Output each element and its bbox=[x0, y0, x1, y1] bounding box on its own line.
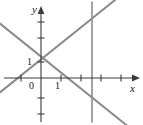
y-unit-tick-label: 1 bbox=[27, 57, 32, 67]
y-axis-arrowhead bbox=[38, 6, 45, 14]
x-axis-arrowhead bbox=[132, 75, 140, 82]
graph-figure: y x 1 0 1 bbox=[0, 0, 143, 125]
origin-label: 0 bbox=[29, 81, 34, 91]
x-axis-label: x bbox=[130, 83, 135, 94]
coordinate-plot bbox=[0, 0, 143, 125]
y-axis-label: y bbox=[32, 4, 37, 15]
x-unit-tick-label: 1 bbox=[55, 81, 60, 91]
